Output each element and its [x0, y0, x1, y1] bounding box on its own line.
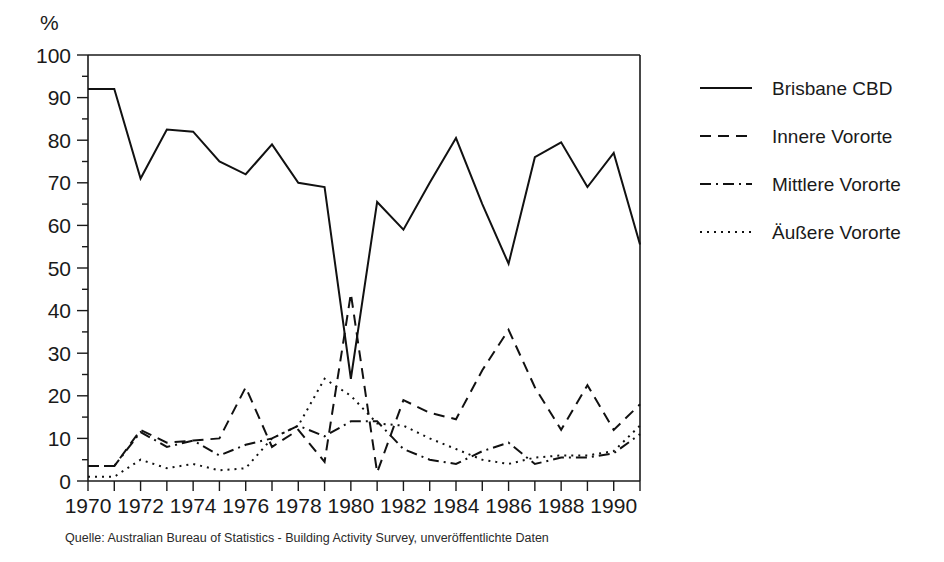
- y-tick-label: 0: [59, 470, 71, 493]
- legend-label: Mittlere Vororte: [772, 174, 901, 195]
- y-tick-label: 30: [48, 342, 71, 365]
- x-tick-label: 1970: [65, 494, 112, 517]
- x-tick-label: 1986: [485, 494, 532, 517]
- x-tick-label: 1982: [380, 494, 427, 517]
- legend-label: Brisbane CBD: [772, 78, 892, 99]
- x-tick-label: 1988: [538, 494, 585, 517]
- y-tick-label: 60: [48, 214, 71, 237]
- x-tick-label: 1978: [275, 494, 322, 517]
- x-tick-label: 1976: [222, 494, 269, 517]
- x-tick-label: 1972: [117, 494, 164, 517]
- legend-label: Äußere Vororte: [772, 222, 901, 243]
- x-tick-label: 1974: [170, 494, 217, 517]
- y-tick-label: 100: [36, 44, 71, 67]
- x-tick-label: 1990: [590, 494, 637, 517]
- chart-figure: % 0102030405060708090100 197019721974197…: [0, 0, 944, 562]
- y-axis-unit-label: %: [40, 11, 59, 34]
- y-tick-label: 90: [48, 86, 71, 109]
- y-tick-label: 80: [48, 129, 71, 152]
- y-tick-label: 20: [48, 384, 71, 407]
- x-tick-label: 1980: [327, 494, 374, 517]
- x-tick-label: 1984: [433, 494, 480, 517]
- y-tick-label: 10: [48, 427, 71, 450]
- source-caption: Quelle: Australian Bureau of Statistics …: [65, 531, 549, 545]
- legend-label: Innere Vororte: [772, 126, 892, 147]
- y-tick-label: 50: [48, 257, 71, 280]
- y-tick-label: 40: [48, 299, 71, 322]
- x-axis-tick-labels: 1970197219741976197819801982198419861988…: [65, 494, 637, 517]
- y-tick-label: 70: [48, 171, 71, 194]
